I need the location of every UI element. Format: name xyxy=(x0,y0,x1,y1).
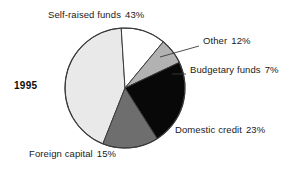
pie-label-other: Other12% xyxy=(203,35,251,46)
pie-slices-group xyxy=(65,28,185,148)
pie-label-foreign-capital: Foreign capital15% xyxy=(29,148,116,159)
pie-label-budgetary-funds: Budgetary funds7% xyxy=(190,64,279,75)
pie-label-domestic-credit-value: 23% xyxy=(246,124,265,135)
pie-label-domestic-credit: Domestic credit23% xyxy=(175,124,265,135)
pie-label-self-raised-funds-value: 43% xyxy=(125,9,144,20)
pie-label-budgetary-funds-value: 7% xyxy=(265,64,279,75)
chart-year-label: 1995 xyxy=(14,80,37,91)
pie-label-other-value: 12% xyxy=(231,35,250,46)
pie-label-self-raised-funds: Self-raised funds43% xyxy=(48,9,144,20)
pie-label-domestic-credit-text: Domestic credit xyxy=(175,124,242,135)
pie-chart-canvas xyxy=(0,0,292,170)
pie-label-budgetary-funds-text: Budgetary funds xyxy=(190,64,261,75)
pie-label-foreign-capital-text: Foreign capital xyxy=(29,148,93,159)
pie-label-foreign-capital-value: 15% xyxy=(97,148,116,159)
pie-label-self-raised-funds-text: Self-raised funds xyxy=(48,9,121,20)
pie-label-other-text: Other xyxy=(203,35,227,46)
pie-chart-figure: Self-raised funds43% Other12% Budgetary … xyxy=(0,0,292,170)
